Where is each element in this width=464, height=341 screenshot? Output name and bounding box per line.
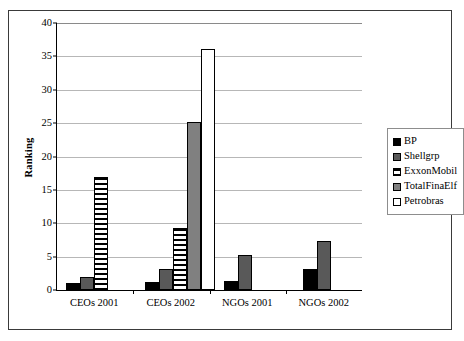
legend-swatch-icon <box>393 153 401 161</box>
bar-groups <box>57 23 362 290</box>
bar-group <box>215 23 294 290</box>
y-tick-label: 20 <box>42 151 53 162</box>
bar <box>224 281 238 290</box>
x-axis-category-label: CEOs 2001 <box>56 297 133 308</box>
legend-item[interactable]: Shellgrp <box>393 149 457 164</box>
chart-figure: Ranking 0510152025303540 CEOs 2001CEOs 2… <box>8 10 452 330</box>
bar <box>238 255 252 290</box>
bar <box>94 177 108 290</box>
x-axis-category-label: CEOs 2002 <box>133 297 210 308</box>
legend-item[interactable]: BP <box>393 134 457 149</box>
legend-label: Petrobras <box>404 196 444 207</box>
legend-label: TotalFinaElf <box>404 181 457 192</box>
y-tick-label: 40 <box>42 18 53 29</box>
y-tick-label: 10 <box>42 218 53 229</box>
bar-group <box>57 23 136 290</box>
bar <box>173 228 187 290</box>
bar <box>80 277 94 290</box>
bar <box>66 283 80 290</box>
y-tick-label: 35 <box>42 51 53 62</box>
legend-swatch-icon <box>393 168 401 176</box>
bar <box>159 269 173 290</box>
y-tick-label: 15 <box>42 185 53 196</box>
y-tick-label: 30 <box>42 85 53 96</box>
legend-label: BP <box>404 136 417 147</box>
plot-area: 0510152025303540 <box>56 23 362 291</box>
legend-item[interactable]: TotalFinaElf <box>393 179 457 194</box>
bar-group <box>294 23 373 290</box>
legend-item[interactable]: ExxonMobil <box>393 164 457 179</box>
chart-legend: BPShellgrpExxonMobilTotalFinaElfPetrobra… <box>387 128 464 215</box>
x-tick-mark <box>210 290 211 294</box>
y-axis-title: Ranking <box>21 23 37 291</box>
bar <box>201 49 215 290</box>
x-axis-category-label: NGOs 2001 <box>209 297 286 308</box>
x-axis-labels: CEOs 2001CEOs 2002NGOs 2001NGOs 2002 <box>56 297 362 308</box>
legend-swatch-icon <box>393 183 401 191</box>
bar <box>187 122 201 290</box>
bar-group <box>136 23 215 290</box>
y-tick-label: 5 <box>47 251 52 262</box>
bar <box>317 241 331 290</box>
y-tick-label: 0 <box>47 285 52 296</box>
x-tick-mark <box>286 290 287 294</box>
bar <box>145 282 159 290</box>
bar <box>303 269 317 290</box>
legend-label: Shellgrp <box>404 151 440 162</box>
legend-label: ExxonMobil <box>404 166 457 177</box>
y-tick-label: 25 <box>42 118 53 129</box>
legend-item[interactable]: Petrobras <box>393 194 457 209</box>
legend-swatch-icon <box>393 198 401 206</box>
x-axis-category-label: NGOs 2002 <box>286 297 363 308</box>
x-tick-mark <box>133 290 134 294</box>
y-axis-title-label: Ranking <box>24 137 35 177</box>
legend-swatch-icon <box>393 138 401 146</box>
